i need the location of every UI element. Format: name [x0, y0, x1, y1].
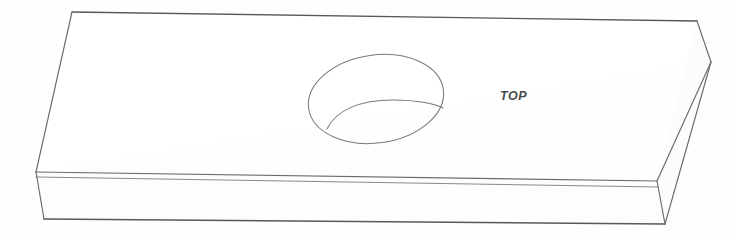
top-face [36, 12, 711, 172]
technical-drawing-canvas: TOP [0, 0, 736, 239]
isometric-block-svg: TOP [0, 0, 736, 239]
top-face-label: TOP [500, 89, 527, 103]
